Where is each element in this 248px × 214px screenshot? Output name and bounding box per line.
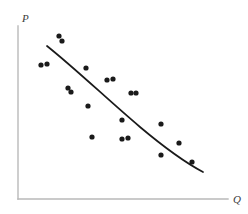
scatter-point — [56, 33, 61, 38]
scatter-point — [158, 152, 163, 157]
scatter-point — [68, 89, 73, 94]
x-axis-label: Q — [233, 193, 241, 205]
scatter-point — [59, 38, 64, 43]
scatter-point — [44, 61, 49, 66]
scatter-point — [125, 135, 130, 140]
demand-curve-figure: P Q — [0, 0, 248, 214]
scatter-point — [85, 103, 90, 108]
scatter-point — [133, 90, 138, 95]
y-axis-label: P — [21, 12, 29, 24]
scatter-point — [119, 136, 124, 141]
scatter-point — [158, 121, 163, 126]
scatter-point — [38, 62, 43, 67]
plot-background — [0, 0, 248, 214]
scatter-point — [176, 140, 181, 145]
scatter-point — [189, 159, 194, 164]
scatter-point — [110, 76, 115, 81]
scatter-plot: P Q — [0, 0, 248, 214]
scatter-point — [119, 117, 124, 122]
scatter-point — [83, 65, 88, 70]
scatter-point — [104, 77, 109, 82]
scatter-point — [89, 134, 94, 139]
scatter-point — [128, 90, 133, 95]
